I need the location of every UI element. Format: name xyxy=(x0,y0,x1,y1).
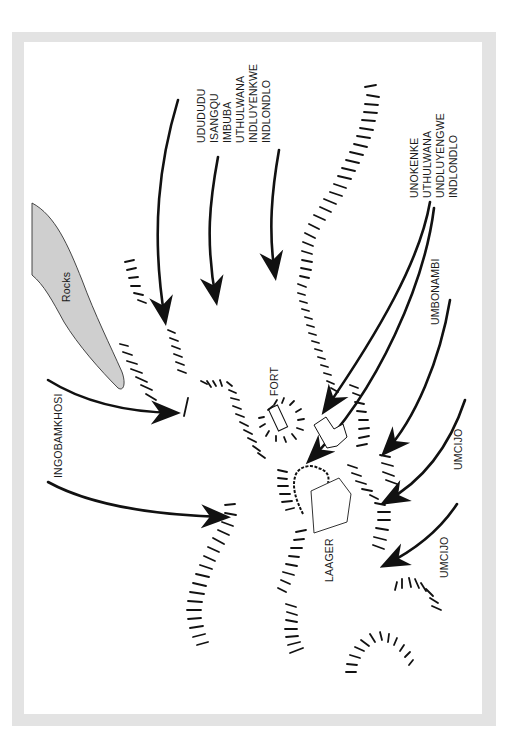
arrow-icon xyxy=(210,157,218,300)
arrow-icon xyxy=(325,202,430,410)
laager-outline xyxy=(311,478,351,533)
regiment-label: ISANGQU xyxy=(208,93,220,143)
regiment-label: UNDLUYENGWE xyxy=(434,113,446,198)
arrow-icon xyxy=(48,482,225,517)
regiment-label: IMBUBA xyxy=(221,102,233,143)
regiment-label: UNOKENKE xyxy=(408,137,420,198)
regiment-label: INDLUYENKWE xyxy=(247,64,259,143)
regiment-label-umcijo-upper: UMCIJO xyxy=(452,429,464,470)
attack-arrows xyxy=(48,100,465,565)
arrow-icon xyxy=(271,150,279,275)
laager-label: LAAGER xyxy=(323,538,335,582)
regiment-label: INDLONDLO xyxy=(447,135,459,198)
fort-building xyxy=(268,405,287,431)
regiment-label: UTHULWANA xyxy=(421,131,433,198)
arrow-icon xyxy=(48,380,175,413)
fort-label: FORT xyxy=(268,366,280,396)
regiment-group-center-north: UDUDUDU ISANGQU IMBUBA UTHULWANA INDLUYE… xyxy=(195,64,272,143)
regiment-label: INDLONDLO xyxy=(260,80,272,143)
regiment-label: UTHULWANA xyxy=(234,76,246,143)
regiment-label-umcijo-lower: UMCIJO xyxy=(438,537,450,578)
regiment-group-north-east: UNOKENKE UTHULWANA UNDLUYENGWE INDLONDLO xyxy=(408,113,459,198)
arrow-icon xyxy=(158,100,178,320)
regiment-label-umbonambi: UMBONAMBI xyxy=(429,258,441,325)
rocks-label: Rocks xyxy=(60,272,72,302)
battle-map-drawing: Rocks UDUDUDU ISANGQU IMBUBA UTHULWANA I… xyxy=(0,0,512,750)
regiment-label-ingobamkhosi: INGOBAMKHOSI xyxy=(52,393,64,478)
regiment-label: UDUDUDU xyxy=(195,89,207,143)
ridges xyxy=(120,85,441,672)
rocks-area: Rocks xyxy=(32,203,124,389)
